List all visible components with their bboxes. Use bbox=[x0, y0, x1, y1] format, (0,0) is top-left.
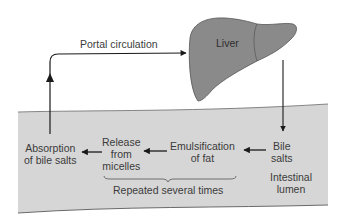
portal-circulation-label: Portal circulation bbox=[80, 38, 158, 50]
absorption-line-2: of bile salts bbox=[24, 154, 77, 166]
intestinal-lumen-line-1: Intestinal bbox=[270, 171, 312, 183]
portal-up-arrowhead bbox=[46, 73, 54, 82]
intestinal-lumen-line-2: lumen bbox=[270, 183, 312, 195]
absorption-line-1: Absorption bbox=[24, 142, 77, 154]
repeated-label: Repeated several times bbox=[113, 184, 223, 196]
emulsification-line-1: Emulsification bbox=[170, 140, 235, 152]
bile-salts-node[interactable]: Bile salts bbox=[271, 140, 293, 164]
emulsification-node[interactable]: Emulsification of fat bbox=[170, 140, 235, 164]
emulsification-line-2: of fat bbox=[170, 152, 235, 164]
liver-shape bbox=[189, 18, 296, 101]
release-node[interactable]: Release from micelles bbox=[102, 136, 141, 172]
bile-salts-line-2: salts bbox=[271, 152, 293, 164]
bile-salts-line-1: Bile bbox=[271, 140, 293, 152]
absorption-node[interactable]: Absorption of bile salts bbox=[24, 142, 77, 166]
release-line-1: Release bbox=[102, 136, 141, 148]
release-line-2: from bbox=[102, 148, 141, 160]
intestinal-lumen-label: Intestinal lumen bbox=[270, 171, 312, 195]
release-line-3: micelles bbox=[102, 160, 141, 172]
liver-label: Liver bbox=[216, 37, 239, 49]
